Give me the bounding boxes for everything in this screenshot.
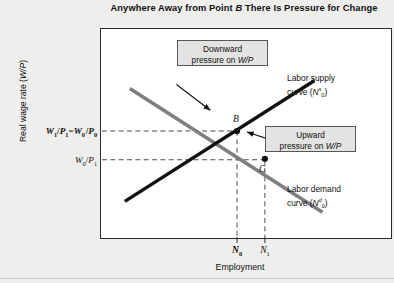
y-axis-label-post: )	[18, 60, 28, 63]
point-marker-b	[234, 128, 240, 134]
labor-supply-line2-post: )	[324, 87, 327, 97]
labor-demand-line2-pre: curve (	[287, 198, 313, 208]
y-tick-label-w1p1: W1/P1=W0 /P0	[2, 126, 97, 138]
labor-supply-line2-pre: curve (	[287, 87, 313, 97]
downward-pressure-line1: Downward	[203, 44, 242, 54]
dashed-guides	[102, 131, 265, 237]
x-axis-label: Employment	[180, 262, 300, 272]
downward-pressure-box: Downward pressure on W/P	[177, 40, 268, 66]
y-axis-label: Real wage rate (W/P)	[18, 26, 28, 176]
x-axis-ticks	[237, 237, 265, 243]
labor-demand-label: Labor demand curve (Nd0)	[287, 184, 341, 212]
labor-supply-sup: s	[319, 86, 322, 92]
x-tick-label-n1: N1	[241, 244, 289, 257]
labor-demand-line1: Labor demand	[287, 184, 341, 194]
figure-page: Anywhere Away from Point B There Is Pres…	[0, 0, 394, 283]
upward-pressure-line1: Upward	[296, 130, 325, 140]
labor-supply-label: Labor supply curve (Ns0)	[287, 73, 335, 101]
y-axis-label-var: W/P	[18, 63, 28, 79]
upward-pressure-line2-var: W/P	[326, 141, 342, 151]
point-label-b: B	[233, 113, 239, 124]
labor-demand-line2-post: )	[325, 198, 328, 208]
labor-supply-line1: Labor supply	[287, 73, 335, 83]
upward-pressure-line2-pre: pressure on	[280, 141, 326, 151]
y-tick-label-w0p1: W0/P1	[2, 155, 97, 167]
downward-pressure-arrow	[176, 84, 210, 110]
figure-title-pre: Anywhere Away from Point	[111, 3, 236, 13]
downward-pressure-line2-pre: pressure on	[192, 55, 238, 65]
page-footer-rule	[0, 278, 394, 279]
downward-pressure-line2-var: W/P	[238, 55, 254, 65]
point-label-c: C	[259, 163, 265, 174]
figure-title: Anywhere Away from Point B There Is Pres…	[97, 3, 391, 13]
labor-demand-sup: d	[319, 197, 322, 203]
plot-area: Downward pressure on W/P Upward pressure…	[100, 28, 392, 239]
figure-title-post: There Is Pressure for Change	[242, 3, 377, 13]
upward-pressure-box: Upward pressure on W/P	[265, 126, 356, 152]
point-marker-c	[262, 156, 268, 162]
